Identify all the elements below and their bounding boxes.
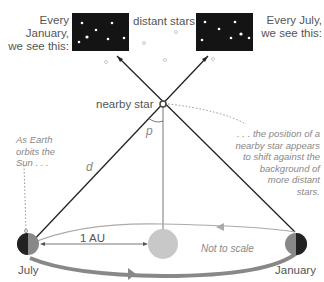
sun [148, 229, 178, 259]
earth-july [17, 233, 39, 255]
january-sky-panel [72, 13, 129, 51]
january-label: January [275, 264, 316, 277]
nearby-star [160, 101, 166, 107]
january-view-label: Every January, we see this: [3, 14, 69, 53]
earth-orbit-note: As Earth orbits the Sun . . . [16, 134, 55, 169]
distance-label: d [86, 162, 93, 174]
parallax-angle-label: p [146, 126, 153, 138]
july-sky-panel [196, 13, 253, 51]
july-view-label: Every July, we see this: [256, 14, 322, 40]
scale-note: Not to scale [201, 243, 254, 255]
earth-january [285, 233, 307, 255]
au-label: 1 AU [80, 232, 105, 245]
distant-stars-label: distant stars [133, 15, 195, 28]
shift-note: . . . the position of a nearby star appe… [222, 128, 320, 197]
nearby-star-label: nearby star [96, 98, 154, 111]
july-label: July [18, 264, 38, 277]
